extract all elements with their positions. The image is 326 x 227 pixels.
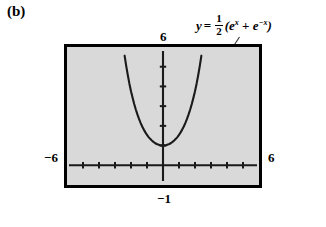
axis-label-xmax: 6 bbox=[268, 151, 275, 164]
axis-label-xmin: −6 bbox=[44, 151, 58, 164]
equation-annotation: y = 1 2 (ex + e−x) bbox=[196, 13, 272, 37]
plot-area bbox=[67, 47, 259, 185]
equation-fraction: 1 2 bbox=[215, 13, 223, 37]
axis-label-ymin: −1 bbox=[157, 192, 171, 205]
close-paren: ) bbox=[267, 18, 271, 33]
calculator-screen bbox=[64, 44, 262, 188]
figure-container: (b) y = 1 2 (ex + e−x) 6 −6 6 −1 bbox=[0, 0, 326, 227]
fraction-denominator: 2 bbox=[215, 26, 223, 37]
panel-letter: (b) bbox=[7, 4, 25, 19]
equation-operator: + bbox=[239, 18, 253, 33]
equation-lhs: y bbox=[196, 19, 202, 32]
equation-equals-sign: = bbox=[204, 19, 211, 32]
axes-group bbox=[69, 51, 257, 181]
plot-svg bbox=[67, 47, 259, 185]
equation-expression: (ex + e−x) bbox=[225, 19, 272, 32]
fraction-numerator: 1 bbox=[215, 13, 223, 24]
axis-label-ymax: 6 bbox=[160, 30, 167, 43]
